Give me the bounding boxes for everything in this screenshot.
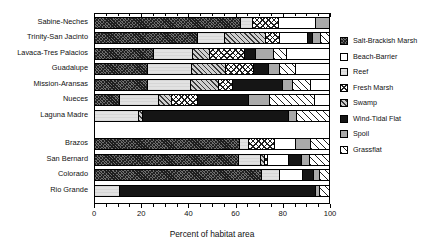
legend-item[interactable]: Beach-Barrier (340, 50, 417, 64)
bar-segment (280, 170, 303, 180)
legend-item[interactable]: Swamp (340, 96, 417, 110)
bar-segment (269, 64, 280, 74)
x-tick-label: 80 (279, 210, 287, 218)
bar-segment (95, 155, 239, 165)
bar-segment (289, 111, 297, 121)
x-tick-label: 40 (184, 210, 192, 218)
bar-segment (296, 64, 329, 74)
bar-segment (293, 80, 312, 90)
bar-segment (241, 18, 253, 28)
x-tick-top (94, 13, 95, 17)
category-label: Sabine-Neches (37, 18, 88, 25)
legend-item[interactable]: Reef (340, 65, 417, 79)
chart-row (95, 32, 329, 44)
bar-segment (148, 64, 192, 74)
bar-segment (275, 139, 296, 149)
x-tick-label: 100 (324, 210, 337, 218)
x-minor-tick (306, 13, 307, 16)
x-tick (141, 204, 142, 208)
legend-item[interactable]: Fresh Marsh (340, 81, 417, 95)
x-minor-tick (165, 204, 166, 207)
bar-segment (120, 186, 317, 196)
bar-segment (95, 49, 154, 59)
x-minor-tick (224, 13, 225, 16)
stacked-bar (95, 138, 329, 150)
x-minor-tick (306, 204, 307, 207)
x-minor-tick (153, 13, 154, 16)
legend-item[interactable]: Spoil (340, 127, 417, 141)
category-label: Brazos (65, 139, 88, 146)
chart-row (95, 138, 329, 150)
stacked-bar (95, 110, 329, 122)
bar-segment (315, 95, 329, 105)
x-tick-label: 60 (231, 210, 239, 218)
legend-label: Fresh Marsh (353, 84, 393, 91)
bar-segment (313, 33, 321, 43)
bar-segment (283, 80, 292, 90)
bar-segment (192, 64, 226, 74)
chart-row (95, 154, 329, 166)
bar-segment (287, 49, 329, 59)
legend-item[interactable]: Wind-Tidal Flat (340, 112, 417, 126)
legend-swatch-icon (340, 130, 348, 138)
chart-row (95, 185, 329, 197)
x-minor-tick (318, 204, 319, 207)
chart-row (95, 48, 329, 60)
x-minor-tick (118, 204, 119, 207)
x-minor-tick (200, 13, 201, 16)
bar-segment (210, 49, 245, 59)
category-label: San Bernard (47, 155, 89, 162)
bar-segment (321, 33, 329, 43)
legend-swatch-icon (340, 53, 348, 61)
legend-label: Spoil (353, 130, 369, 137)
bar-segment (245, 49, 257, 59)
bar-segment (256, 49, 274, 59)
chart-row (95, 79, 329, 91)
legend-label: Beach-Barrier (353, 53, 397, 60)
x-tick-top (141, 13, 142, 17)
x-minor-tick (295, 204, 296, 207)
bar-segment (289, 155, 302, 165)
x-tick-top (330, 13, 331, 17)
x-minor-tick (118, 13, 119, 16)
bar-segment (320, 170, 329, 180)
chart-row (95, 110, 329, 122)
bar-segment (268, 155, 289, 165)
stacked-bar (95, 185, 329, 197)
x-minor-tick (200, 204, 201, 207)
stacked-bar-chart: Sabine-NechesTrinity-San JacintoLavaca-T… (0, 0, 435, 250)
category-label: Colorado (58, 170, 88, 177)
legend-item[interactable]: Salt-Brackish Marsh (340, 34, 417, 48)
bar-segment (249, 95, 270, 105)
bar-segment (270, 95, 314, 105)
x-minor-tick (271, 13, 272, 16)
stacked-bar (95, 94, 329, 106)
x-tick (236, 204, 237, 208)
legend-item[interactable]: Grassflat (340, 143, 417, 157)
stacked-bar (95, 63, 329, 75)
bar-segment (95, 111, 139, 121)
bar-segment (262, 170, 280, 180)
bar-segment (249, 139, 275, 149)
x-axis-title: Percent of habitat area (94, 229, 330, 239)
legend-label: Wind-Tidal Flat (353, 115, 401, 122)
stacked-bar (95, 17, 329, 29)
x-minor-tick (259, 13, 260, 16)
bar-segment (198, 33, 225, 43)
bar-segment (274, 49, 287, 59)
bar-segment (154, 49, 194, 59)
bar-segment (303, 170, 314, 180)
chart-row (95, 17, 329, 29)
bar-segment (226, 64, 254, 74)
bar-segment (95, 186, 120, 196)
bar-segment (240, 139, 249, 149)
bar-segment (253, 18, 279, 28)
legend: Salt-Brackish MarshBeach-BarrierReefFres… (340, 34, 417, 158)
x-minor-tick (295, 13, 296, 16)
legend-label: Reef (353, 68, 368, 75)
legend-swatch-icon (340, 68, 348, 76)
category-label: Trinity-San Jacinto (27, 33, 88, 40)
legend-swatch-icon (340, 99, 348, 107)
x-minor-tick (271, 204, 272, 207)
bar-segment (219, 80, 233, 90)
